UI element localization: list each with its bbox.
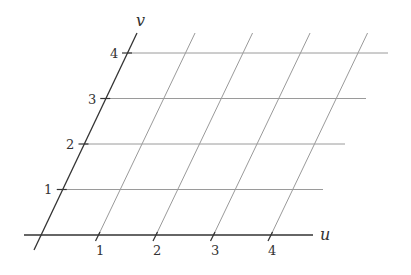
v-axis-ticks: 1 2 3 4	[44, 46, 132, 197]
v-axis	[34, 33, 137, 250]
v-tick-label-2: 2	[66, 137, 74, 152]
skewed-grid-diagram: u v 1 2 3 4 1 2 3 4	[0, 0, 411, 275]
u-tick-label-2: 2	[153, 243, 161, 258]
v-tick-label-3: 3	[88, 92, 96, 107]
u-tick-label-3: 3	[211, 243, 219, 258]
v-tick-label-1: 1	[44, 182, 52, 197]
u-tick-label-4: 4	[268, 243, 276, 258]
grid-line-u-3	[214, 33, 311, 235]
u-tick-3	[211, 232, 216, 241]
u-tick-4	[268, 232, 273, 241]
u-tick-label-1: 1	[96, 243, 104, 258]
axes: u v	[24, 11, 330, 250]
v-tick-label-4: 4	[110, 46, 118, 61]
u-tick-1	[96, 232, 101, 241]
grid-line-u-4	[271, 33, 368, 235]
grid-line-u-2	[156, 33, 253, 235]
grid-line-u-1	[99, 33, 196, 235]
u-tick-2	[153, 232, 158, 241]
u-axis-label: u	[320, 225, 330, 244]
grid-lines	[63, 33, 388, 235]
v-axis-label: v	[136, 11, 145, 30]
u-axis-ticks: 1 2 3 4	[96, 232, 277, 258]
